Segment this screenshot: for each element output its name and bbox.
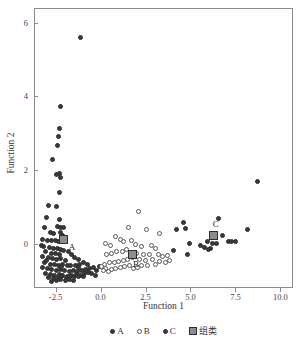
x-tick-label: 5.0 [185, 292, 196, 302]
x-tick-label: 0.0 [95, 292, 106, 302]
legend-item-a: A [110, 327, 124, 336]
x-tick-label: 7.5 [230, 292, 241, 302]
y-tick-label: 2 [8, 165, 28, 175]
legend-item-b: B [137, 327, 150, 336]
scatter-plot-figure: ABC Function 1 Function 2 A B C 组类 -2.50… [0, 0, 304, 343]
legend-item-centroid: 组类 [189, 327, 217, 336]
y-tick-label: 0 [8, 239, 28, 249]
x-tick-label: 10.0 [273, 292, 288, 302]
y-axis-title: Function 2 [6, 118, 16, 188]
legend-label-a: A [117, 327, 124, 336]
legend: A B C 组类 [34, 323, 293, 339]
y-tick-label: 6 [8, 18, 28, 28]
x-axis-title: Function 1 [34, 301, 293, 311]
legend-label-centroid: 组类 [199, 327, 217, 336]
legend-label-c: C [170, 327, 176, 336]
x-tick-label: -2.5 [49, 292, 62, 302]
y-tick-mark [34, 96, 38, 97]
x-tick-label: 2.5 [140, 292, 151, 302]
y-tick-mark [34, 244, 38, 245]
legend-label-b: B [144, 327, 150, 336]
y-tick-mark [34, 23, 38, 24]
legend-item-c: C [163, 327, 176, 336]
open-circle-icon [137, 329, 142, 334]
plot-area [34, 8, 293, 288]
filled-circle-icon [110, 329, 115, 334]
y-tick-label: 4 [8, 91, 28, 101]
y-tick-mark [34, 170, 38, 171]
filled-circle-icon [163, 329, 168, 334]
filled-square-icon [189, 327, 197, 335]
